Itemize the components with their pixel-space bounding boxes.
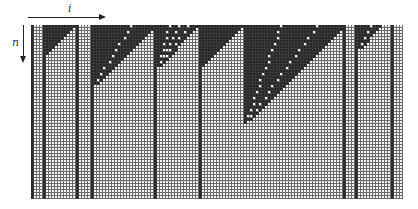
light-cell [400, 196, 403, 199]
cell-grid [31, 25, 403, 199]
axis-label-i: i [68, 2, 72, 15]
vertical-arrow-icon [23, 25, 24, 57]
horizontal-arrow-icon [28, 17, 100, 18]
axis-label-n: n [12, 36, 19, 49]
